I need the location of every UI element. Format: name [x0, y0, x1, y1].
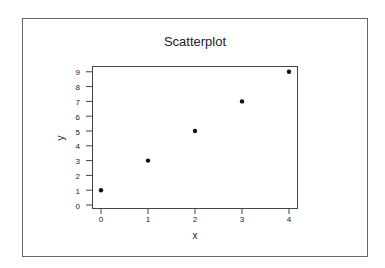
plot-area: [93, 67, 298, 209]
y-axis-label: y: [55, 136, 66, 141]
data-point: [240, 99, 244, 103]
y-tick-label: 8: [76, 83, 81, 92]
y-tick-label: 3: [76, 157, 81, 166]
x-axis-label: x: [193, 230, 198, 241]
y-tick-label: 5: [76, 128, 81, 137]
y-tick-label: 7: [76, 98, 81, 107]
y-tick-label: 6: [76, 113, 81, 122]
x-tick-label: 1: [146, 215, 151, 224]
data-point: [287, 70, 291, 74]
y-tick-label: 0: [76, 202, 81, 211]
y-tick-label: 1: [76, 187, 81, 196]
x-tick-label: 2: [193, 215, 198, 224]
data-point: [193, 129, 197, 133]
y-tick-label: 2: [76, 172, 81, 181]
scatterplot-figure: Scatterplot 0123456789 01234 x y: [0, 0, 385, 268]
x-tick-label: 0: [99, 215, 104, 224]
chart-title: Scatterplot: [164, 34, 227, 49]
x-tick-label: 4: [287, 215, 292, 224]
x-tick-label: 3: [240, 215, 245, 224]
data-point: [146, 158, 150, 162]
y-tick-label: 4: [76, 142, 81, 151]
y-tick-label: 9: [76, 68, 81, 77]
data-point: [99, 188, 103, 192]
